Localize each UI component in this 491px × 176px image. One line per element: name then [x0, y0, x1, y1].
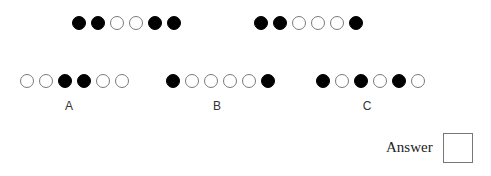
option-b-pattern	[166, 74, 275, 88]
sequence-row-2	[254, 16, 363, 30]
filled-circle-icon	[72, 16, 86, 30]
filled-circle-icon	[91, 16, 105, 30]
filled-circle-icon	[261, 74, 275, 88]
empty-circle-icon	[204, 74, 218, 88]
option-c-pattern	[316, 74, 425, 88]
empty-circle-icon	[223, 74, 237, 88]
filled-circle-icon	[77, 74, 91, 88]
filled-circle-icon	[316, 74, 330, 88]
option-c-label: C	[357, 99, 377, 113]
answer-label: Answer	[386, 139, 433, 156]
filled-circle-icon	[349, 16, 363, 30]
empty-circle-icon	[129, 16, 143, 30]
filled-circle-icon	[254, 16, 268, 30]
empty-circle-icon	[311, 16, 325, 30]
filled-circle-icon	[273, 16, 287, 30]
option-b-label: B	[207, 99, 227, 113]
empty-circle-icon	[96, 74, 110, 88]
empty-circle-icon	[110, 16, 124, 30]
empty-circle-icon	[39, 74, 53, 88]
filled-circle-icon	[354, 74, 368, 88]
sequence-row-1	[72, 16, 181, 30]
filled-circle-icon	[148, 16, 162, 30]
filled-circle-icon	[166, 74, 180, 88]
empty-circle-icon	[20, 74, 34, 88]
empty-circle-icon	[330, 16, 344, 30]
empty-circle-icon	[185, 74, 199, 88]
empty-circle-icon	[292, 16, 306, 30]
empty-circle-icon	[373, 74, 387, 88]
filled-circle-icon	[58, 74, 72, 88]
empty-circle-icon	[115, 74, 129, 88]
answer-input-box[interactable]	[443, 133, 473, 163]
empty-circle-icon	[411, 74, 425, 88]
option-a-pattern	[20, 74, 129, 88]
option-a-label: A	[59, 99, 79, 113]
empty-circle-icon	[335, 74, 349, 88]
empty-circle-icon	[242, 74, 256, 88]
filled-circle-icon	[392, 74, 406, 88]
filled-circle-icon	[167, 16, 181, 30]
